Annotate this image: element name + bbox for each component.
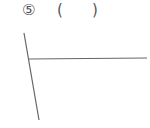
horizontal-line	[29, 58, 147, 59]
angle-figure	[0, 0, 150, 128]
slanted-line	[24, 33, 39, 120]
